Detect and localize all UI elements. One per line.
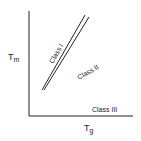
y-axis-label: Tm bbox=[8, 52, 20, 63]
class-ii-label: Class II bbox=[76, 63, 100, 81]
x-axis-label: Tg bbox=[84, 123, 94, 135]
class-iii-label: Class III bbox=[92, 106, 117, 113]
diagram-canvas: Tm Tg Class I Class II Class III bbox=[0, 0, 141, 141]
